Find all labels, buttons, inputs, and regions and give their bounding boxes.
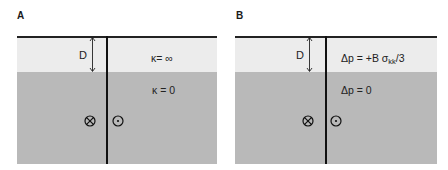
into-page-icon <box>302 115 314 127</box>
upper-layer-label: Δp = +B σkk/3 <box>341 52 405 66</box>
fault-line <box>325 36 327 164</box>
surface-line <box>17 36 217 38</box>
panel-b-letter: B <box>236 10 243 21</box>
lower-layer-label: κ = 0 <box>152 84 175 96</box>
lower-layer-label: Δp = 0 <box>341 84 372 96</box>
upper-layer-label: κ= ∞ <box>151 52 173 64</box>
upper-layer <box>17 36 217 72</box>
panel-a: D κ= ∞ κ = 0 <box>17 36 217 164</box>
upper-layer-label-tail: /3 <box>396 52 405 64</box>
panel-a-letter: A <box>17 10 24 21</box>
out-of-page-icon <box>330 115 342 127</box>
into-page-icon <box>84 115 96 127</box>
fault-line <box>106 36 108 164</box>
upper-layer <box>235 36 437 72</box>
upper-layer-label-main: Δp = +B σ <box>341 52 388 64</box>
depth-label: D <box>79 49 87 61</box>
upper-layer-label-subscript: kk <box>388 57 396 66</box>
depth-arrow-icon <box>306 37 313 72</box>
depth-label: D <box>296 49 304 61</box>
panel-b: D Δp = +B σkk/3 Δp = 0 <box>235 36 437 164</box>
out-of-page-icon <box>112 115 124 127</box>
depth-arrow-icon <box>89 37 96 72</box>
surface-line <box>235 36 437 38</box>
